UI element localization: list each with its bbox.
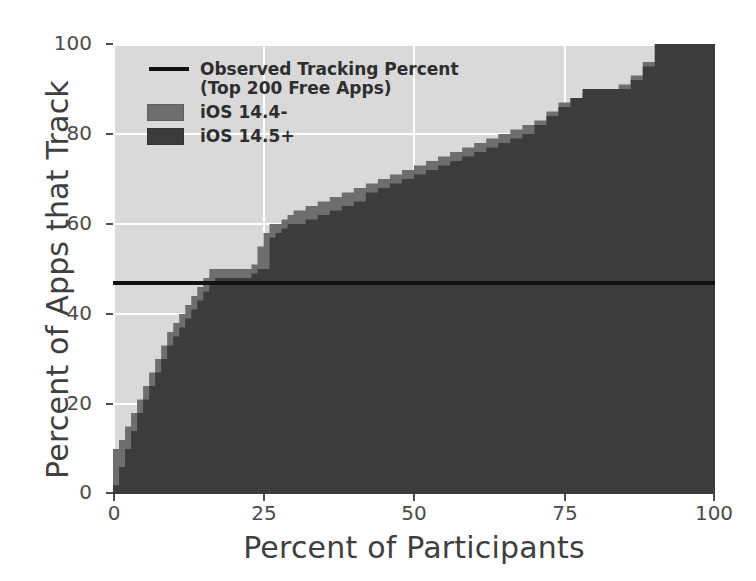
xtick-mark-50 <box>413 494 415 501</box>
ytick-mark-60 <box>106 223 113 225</box>
xtick-label-50: 50 <box>379 503 449 523</box>
xtick-label-0: 0 <box>79 503 149 523</box>
xtick-mark-100 <box>713 494 715 501</box>
legend-patch-key-ios-14-4-minus <box>147 103 191 120</box>
ytick-mark-80 <box>106 133 113 135</box>
xtick-label-75: 75 <box>530 503 600 523</box>
ytick-mark-100 <box>106 43 113 45</box>
legend-item-ios-14-5-plus: iOS 14.5+ <box>147 127 459 146</box>
ytick-mark-40 <box>106 313 113 315</box>
swatch-icon-ios-14-4-minus <box>147 104 184 121</box>
legend-item-observed-tracking: Observed Tracking Percent (Top 200 Free … <box>147 60 459 98</box>
legend-label-ios-14-4-minus: iOS 14.4- <box>200 103 287 122</box>
ytick-label-100: 100 <box>4 33 92 53</box>
legend-line-key <box>147 60 191 77</box>
xtick-mark-75 <box>564 494 566 501</box>
xtick-label-100: 100 <box>679 503 749 523</box>
legend-item-ios-14-4-minus: iOS 14.4- <box>147 103 459 122</box>
chart-figure: Observed Tracking Percent (Top 200 Free … <box>0 0 756 581</box>
ytick-mark-20 <box>106 403 113 405</box>
plot-area: Observed Tracking Percent (Top 200 Free … <box>113 44 715 494</box>
xtick-mark-25 <box>263 494 265 501</box>
xtick-label-25: 25 <box>229 503 299 523</box>
swatch-icon-ios-14-5-plus <box>147 128 184 145</box>
ytick-mark-0 <box>106 492 113 494</box>
legend-patch-key-ios-14-5-plus <box>147 127 191 144</box>
legend: Observed Tracking Percent (Top 200 Free … <box>143 56 465 152</box>
x-axis-label: Percent of Participants <box>113 530 715 565</box>
line-icon <box>149 67 189 71</box>
observed-tracking-reference-line <box>113 281 715 285</box>
legend-label-ios-14-5-plus: iOS 14.5+ <box>200 127 295 146</box>
xtick-mark-0 <box>113 494 115 501</box>
legend-label-observed-tracking: Observed Tracking Percent (Top 200 Free … <box>200 60 459 98</box>
y-axis-label: Percent of Apps that Track <box>40 55 75 505</box>
